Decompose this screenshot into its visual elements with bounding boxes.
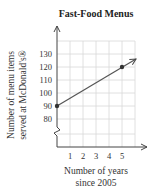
grid xyxy=(57,41,135,147)
svg-text:100: 100 xyxy=(39,88,52,98)
svg-text:2: 2 xyxy=(81,151,85,161)
chart-title: Fast-Food Menus xyxy=(59,8,134,19)
svg-text:80: 80 xyxy=(44,114,53,124)
trend-line xyxy=(57,59,136,106)
data-point-5 xyxy=(120,65,124,69)
x-axis-label-line1: Number of years xyxy=(64,166,128,176)
y-axis-label-line2: served at McDonald's® xyxy=(18,50,28,140)
svg-text:3: 3 xyxy=(94,151,98,161)
chart: Fast-Food Menus 130 120 110 100 90 80 1 … xyxy=(0,0,156,196)
y-axis-label-line1: Number of menu items xyxy=(6,51,16,139)
x-tick-labels: 1 2 3 4 5 xyxy=(68,151,124,161)
svg-text:5: 5 xyxy=(120,151,124,161)
axis-break-icon xyxy=(54,127,60,136)
svg-text:120: 120 xyxy=(39,62,52,72)
svg-text:130: 130 xyxy=(39,49,52,59)
svg-text:4: 4 xyxy=(107,151,112,161)
x-axis-label-line2: since 2005 xyxy=(76,178,117,188)
y-tick-labels: 130 120 110 100 90 80 xyxy=(39,49,52,124)
data-point-0 xyxy=(55,104,59,108)
svg-text:90: 90 xyxy=(44,101,53,111)
svg-text:110: 110 xyxy=(40,75,52,85)
svg-text:1: 1 xyxy=(68,151,72,161)
